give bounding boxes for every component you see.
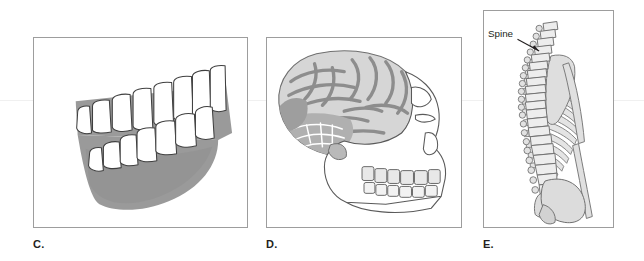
figure-sheet: Spine C. D. E. (0, 0, 644, 261)
spine-callout-label: Spine (488, 28, 514, 39)
dentition-illustration (34, 38, 247, 227)
panel-label-d: D. (266, 239, 277, 250)
panel-d (266, 37, 462, 228)
hominid-skull-illustration (267, 38, 461, 227)
panel-e: Spine (483, 10, 614, 228)
spine-illustration: Spine (484, 11, 613, 227)
panel-c (33, 37, 248, 228)
panel-label-c: C. (33, 239, 44, 250)
nasal-aperture (423, 133, 437, 155)
panel-label-e: E. (483, 239, 494, 250)
